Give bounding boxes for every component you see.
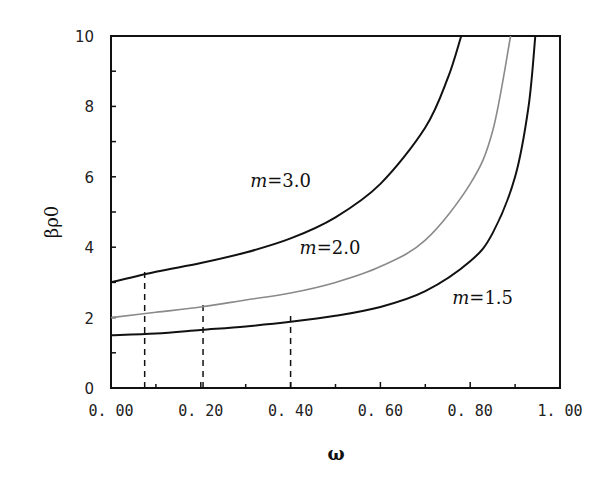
y-tick-label: 6 bbox=[84, 169, 94, 187]
x-tick-label: 0. 40 bbox=[268, 402, 313, 420]
y-tick-label: 10 bbox=[75, 28, 94, 46]
y-tick-label: 0 bbox=[84, 380, 94, 398]
x-tick-label: 0. 80 bbox=[448, 402, 493, 420]
y-tick-label: 4 bbox=[84, 239, 94, 257]
plot-area bbox=[111, 36, 560, 388]
chart: 0. 000. 200. 400. 600. 801. 000246810 m=… bbox=[0, 0, 611, 481]
x-axis-title: ω bbox=[327, 443, 344, 464]
y-tick-label: 2 bbox=[84, 310, 94, 328]
curve-label: m=1.5 bbox=[452, 287, 513, 308]
y-tick-label: 8 bbox=[84, 98, 94, 116]
x-tick-label: 1. 00 bbox=[537, 402, 582, 420]
curve-m30 bbox=[111, 36, 461, 282]
x-tick-label: 0. 20 bbox=[178, 402, 223, 420]
x-tick-label: 0. 00 bbox=[88, 402, 133, 420]
axis-ticks: 0. 000. 200. 400. 600. 801. 000246810 bbox=[75, 28, 583, 420]
y-axis-title: βρ0 bbox=[41, 206, 62, 238]
curve-label: m=3.0 bbox=[250, 170, 311, 191]
curve-label: m=2.0 bbox=[300, 237, 361, 258]
x-tick-label: 0. 60 bbox=[358, 402, 403, 420]
plot-frame bbox=[111, 36, 560, 388]
dashed-guide-lines bbox=[145, 272, 291, 388]
